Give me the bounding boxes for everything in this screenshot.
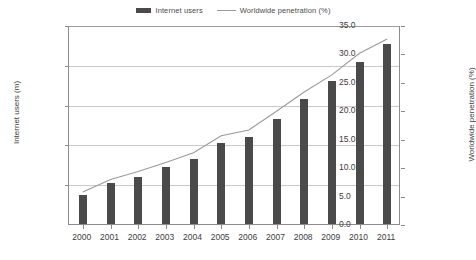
legend-item-internet-users: Internet users: [136, 6, 202, 15]
bar-swatch-icon: [136, 8, 151, 13]
y-axis-right-tick-label: 10.0: [339, 162, 379, 172]
y-axis-right-tick-label: 15.0: [339, 134, 379, 144]
line-swatch-icon: [217, 10, 236, 11]
y-axis-right-tickmark: [401, 197, 405, 198]
y-axis-right-tickmark: [401, 111, 405, 112]
y-axis-right-tick-label: 5.0: [339, 191, 379, 201]
x-axis-tickmark: [111, 225, 112, 229]
x-axis-tickmark: [83, 225, 84, 229]
x-axis-tickmark: [387, 225, 388, 229]
y-axis-right-tickmark: [401, 140, 405, 141]
x-axis-tickmark: [249, 225, 250, 229]
y-axis-right-tick-label: 0.0: [339, 219, 379, 229]
x-axis-tickmark: [277, 225, 278, 229]
x-axis-tickmark: [221, 225, 222, 229]
legend-label-worldwide-penetration: Worldwide penetration (%): [240, 6, 331, 15]
x-axis-tickmark: [166, 225, 167, 229]
x-axis-tickmark: [138, 225, 139, 229]
y-axis-right-title: Worldwide penetration (%): [467, 40, 476, 190]
y-axis-right-tick-label: 35.0: [339, 20, 379, 30]
x-axis-tickmark: [304, 225, 305, 229]
y-axis-right-tickmark: [401, 168, 405, 169]
x-axis-tickmark: [194, 225, 195, 229]
y-axis-right-tick-label: 25.0: [339, 77, 379, 87]
y-axis-right-tickmark: [401, 83, 405, 84]
y-axis-right-tick-label: 20.0: [339, 105, 379, 115]
x-axis-tickmark: [332, 225, 333, 229]
y-axis-right-tickmark: [401, 26, 405, 27]
y-axis-right-tickmark: [401, 225, 405, 226]
legend-item-worldwide-penetration: Worldwide penetration (%): [217, 6, 331, 15]
chart-legend: Internet users Worldwide penetration (%): [0, 6, 467, 15]
x-axis-tick-label: 2011: [366, 232, 406, 242]
y-axis-left-title: Internet users (m): [12, 53, 21, 173]
y-axis-right-tick-label: 30.0: [339, 48, 379, 58]
y-axis-right-tickmark: [401, 54, 405, 55]
legend-label-internet-users: Internet users: [155, 6, 202, 15]
